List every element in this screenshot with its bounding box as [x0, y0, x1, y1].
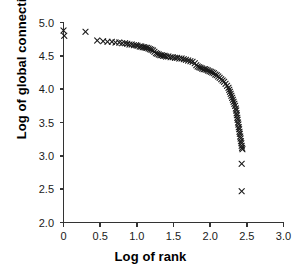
x-tick-label: 0.5 — [93, 231, 108, 242]
scatter-plot-canvas — [0, 0, 301, 270]
data-point-marker — [83, 29, 88, 34]
data-point-markers — [61, 28, 245, 194]
x-tick-label: 1.0 — [129, 231, 144, 242]
data-point-marker — [239, 189, 244, 194]
x-tick-label: 0 — [60, 231, 66, 242]
data-point-marker — [239, 161, 244, 166]
data-point-marker — [95, 38, 100, 43]
y-axis-title: Log of global connectivity — [14, 0, 29, 158]
y-tick-label: 2.5 — [20, 184, 54, 195]
x-tick-label: 2.0 — [203, 231, 218, 242]
x-tick-label: 3.0 — [276, 231, 291, 242]
axis-lines — [64, 22, 284, 223]
y-tick-label: 2.0 — [20, 217, 54, 228]
x-axis-title: Log of rank — [0, 249, 301, 264]
tick-marks — [60, 23, 284, 227]
x-tick-label: 2.5 — [239, 231, 254, 242]
x-tick-label: 1.5 — [166, 231, 181, 242]
chart-figure: 2.02.53.03.54.04.55.0 00.51.01.52.02.53.… — [0, 0, 301, 270]
